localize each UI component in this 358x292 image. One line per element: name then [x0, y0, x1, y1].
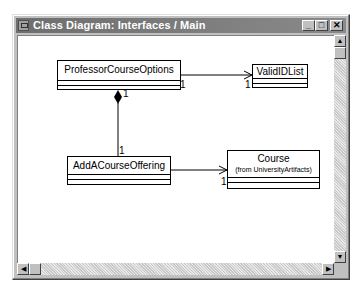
operations-compartment: [228, 183, 319, 187]
minimize-button[interactable]: _: [302, 20, 315, 31]
class-course[interactable]: Course (from UniversityArtifacts): [227, 150, 320, 189]
scroll-right-button[interactable]: ▶: [322, 263, 334, 275]
title-bar[interactable]: Class Diagram: Interfaces / Main _ □ ✕: [16, 18, 346, 33]
multiplicity-label: 1: [245, 79, 251, 90]
window-title: Class Diagram: Interfaces / Main: [33, 19, 206, 31]
scroll-down-button[interactable]: ▼: [334, 251, 346, 263]
multiplicity-label: 1: [221, 176, 227, 187]
horizontal-scroll-thumb[interactable]: [29, 263, 41, 275]
class-name: Course: [257, 153, 289, 164]
scroll-left-button[interactable]: ◀: [17, 263, 29, 275]
multiplicity-label: 1: [119, 145, 125, 156]
diagram-canvas[interactable]: ProfessorCourseOptions ValidIDList AddAC…: [17, 35, 335, 264]
class-add-a-course-offering[interactable]: AddACourseOffering: [67, 156, 171, 185]
maximize-button[interactable]: □: [315, 20, 328, 31]
horizontal-scrollbar[interactable]: ◀ ▶: [17, 263, 334, 275]
multiplicity-label: 1: [180, 79, 186, 90]
class-name: ProfessorCourseOptions: [58, 61, 180, 81]
size-grip[interactable]: [334, 263, 346, 275]
class-name: AddACourseOffering: [68, 157, 170, 175]
class-diagram-window: Class Diagram: Interfaces / Main _ □ ✕ P…: [12, 14, 350, 280]
operations-compartment: [58, 86, 180, 90]
class-name-block: Course (from UniversityArtifacts): [228, 151, 319, 178]
vertical-scrollbar[interactable]: ▲ ▼: [334, 35, 346, 263]
class-diagram-icon[interactable]: [18, 20, 29, 31]
class-valid-id-list[interactable]: ValidIDList: [252, 64, 308, 88]
multiplicity-label: 1: [123, 88, 129, 99]
class-name: ValidIDList: [253, 65, 307, 79]
operations-compartment: [253, 84, 307, 88]
package-note: (from UniversityArtifacts): [228, 164, 319, 175]
vertical-scroll-thumb[interactable]: [334, 47, 346, 59]
class-professor-course-options[interactable]: ProfessorCourseOptions: [57, 60, 181, 90]
scroll-up-button[interactable]: ▲: [334, 35, 346, 47]
composition-diamond-icon: [114, 90, 122, 104]
operations-compartment: [68, 180, 170, 184]
close-button[interactable]: ✕: [330, 20, 343, 31]
